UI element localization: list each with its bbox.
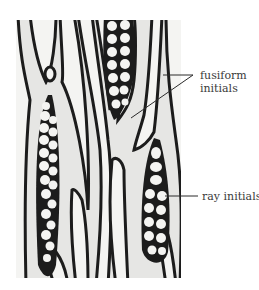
fusiform-initials-label: fusiform initials — [200, 69, 247, 95]
label-line: initials — [200, 82, 247, 95]
label-line: fusiform — [200, 69, 247, 82]
leader-lines — [0, 0, 259, 290]
label-line: ray initials — [202, 190, 259, 203]
ray-initials-label: ray initials — [202, 190, 259, 203]
